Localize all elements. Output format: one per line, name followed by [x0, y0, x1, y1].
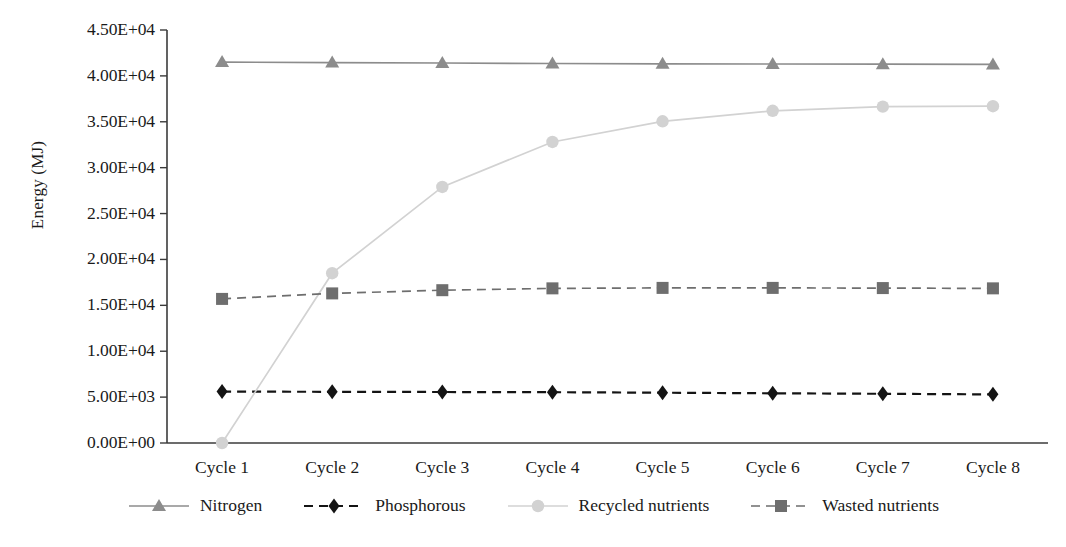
chart-axes: [160, 30, 1048, 443]
chart-series-nitrogen: [215, 55, 1000, 69]
chart-legend: NitrogenPhosphorousRecycled nutrientsWas…: [0, 495, 1066, 516]
chart-figure: Energy (MJ) 0.00E+005.00E+031.00E+041.50…: [0, 0, 1066, 547]
y-axis-tick-label: 5.00E+03: [35, 386, 155, 407]
x-axis-tick-label: Cycle 3: [382, 457, 502, 478]
x-axis-tick-label: Cycle 2: [272, 457, 392, 478]
legend-key-circle-icon: [506, 497, 570, 515]
x-axis-tick-label: Cycle 5: [603, 457, 723, 478]
legend-item-recycled-nutrients[interactable]: Recycled nutrients: [506, 495, 710, 516]
y-axis-tick-label: 2.00E+04: [35, 248, 155, 269]
y-axis-tick-label: 1.00E+04: [35, 340, 155, 361]
legend-key-diamond-icon: [302, 497, 366, 515]
legend-label: Recycled nutrients: [579, 495, 710, 516]
chart-series-phosphorous: [217, 384, 999, 402]
legend-item-wasted-nutrients[interactable]: Wasted nutrients: [749, 495, 939, 516]
x-axis-tick-label: Cycle 1: [162, 457, 282, 478]
x-axis-tick-label: Cycle 8: [933, 457, 1053, 478]
legend-item-phosphorous[interactable]: Phosphorous: [302, 495, 465, 516]
legend-label: Wasted nutrients: [822, 495, 939, 516]
y-axis-tick-label: 2.50E+04: [35, 203, 155, 224]
y-axis-tick-label: 4.00E+04: [35, 65, 155, 86]
x-axis-tick-label: Cycle 6: [713, 457, 833, 478]
y-axis-tick-label: 3.50E+04: [35, 111, 155, 132]
y-axis-tick-label: 3.00E+04: [35, 157, 155, 178]
chart-series-wasted-nutrients: [216, 282, 999, 305]
x-axis-tick-label: Cycle 7: [823, 457, 943, 478]
legend-label: Phosphorous: [375, 495, 465, 516]
y-axis-tick-label: 4.50E+04: [35, 19, 155, 40]
legend-key-triangle-icon: [127, 497, 191, 515]
x-axis-tick-label: Cycle 4: [492, 457, 612, 478]
y-axis-tick-label: 1.50E+04: [35, 294, 155, 315]
legend-item-nitrogen[interactable]: Nitrogen: [127, 495, 262, 516]
legend-key-square-icon: [749, 497, 813, 515]
y-axis-tick-label: 0.00E+00: [35, 432, 155, 453]
legend-label: Nitrogen: [200, 495, 262, 516]
